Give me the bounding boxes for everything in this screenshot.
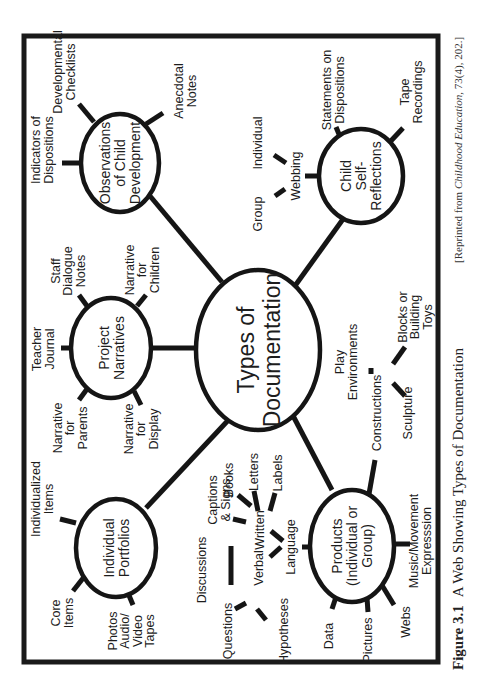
leaf-data: Data <box>322 623 336 649</box>
leaf-checklists: DevelopmentalChecklists <box>51 30 78 113</box>
node-label-portfolios: IndividualPortfolios <box>101 518 132 577</box>
leaf-photos: PhotosAudio/VideoTapes <box>106 612 158 651</box>
connector-constructions <box>369 460 375 494</box>
leaf-statements: Statements onDispositions <box>320 50 347 131</box>
spoke-anecdotal <box>146 113 163 124</box>
leaf-group: Group <box>251 197 265 232</box>
figure-source: [Reprinted from Childhood Education, 73(… <box>452 37 465 263</box>
leaf-blocks: Blocks orBuildingToys <box>396 291 435 342</box>
spoke-narr-display <box>134 391 141 405</box>
leaf-individual: Individual <box>251 117 265 170</box>
leaf-tape: TapeRecordings <box>398 60 425 123</box>
spoke-questions <box>235 603 246 609</box>
spoke-narr-parents <box>79 389 87 400</box>
leaf-questions: Questions <box>221 603 235 659</box>
leaf-written: Written <box>253 510 267 549</box>
spoke-individualized <box>60 519 76 523</box>
leaf-constructions: Constructions <box>370 375 384 451</box>
leaf-webs: Webs <box>399 606 413 638</box>
leaf-verbal: Verbal <box>252 550 266 585</box>
spoke-narr-children <box>137 295 146 306</box>
leaf-indicators: Indicators ofDispositions <box>29 115 56 184</box>
spoke-checklists <box>79 104 94 122</box>
leaf-narr-parents: NarrativeforParents <box>51 403 90 454</box>
spoke-group <box>275 189 285 196</box>
spoke-labels <box>270 493 275 511</box>
spoke-staff-dialogue <box>79 295 87 306</box>
figure-page: Types ofDocumentationObservationsof Chil… <box>0 0 481 695</box>
spoke-hypotheses <box>257 609 266 620</box>
spoke-core-items <box>73 577 84 591</box>
leaf-webbing: Webbing <box>289 151 303 200</box>
spoke-books <box>238 495 251 506</box>
leaf-books: Books <box>222 463 236 498</box>
spoke-individual <box>274 155 286 163</box>
leaf-anecdotal: AnecdotalNotes <box>172 63 199 119</box>
leaf-play-env: PlayEnvironments <box>333 324 360 400</box>
spoke-written <box>271 531 283 541</box>
leaf-music: Music/MovementExpresssion <box>407 493 434 588</box>
leaf-hypotheses: Hypotheses <box>277 598 291 664</box>
leaf-discussions: Discussions <box>195 537 209 604</box>
leaf-individualized: IndividualizedItems <box>29 461 56 537</box>
connector-products <box>290 410 332 490</box>
leaf-sculpture: Sculpture <box>401 387 415 440</box>
connector-self-reflections <box>292 215 346 290</box>
leaf-pictures: Pictures <box>361 617 375 662</box>
leaf-letters: Letters <box>247 453 261 491</box>
spoke-verbal <box>270 547 281 557</box>
leaf-core-items: CoreItems <box>49 598 76 629</box>
figure-caption: Figure 3.1A Web Showing Types of Documen… <box>450 348 466 670</box>
spoke-captions <box>233 519 246 522</box>
leaf-language: Language <box>284 519 298 575</box>
leaf-staff-dialogue: StaffDialogueNotes <box>49 246 88 295</box>
leaf-labels: Labels <box>271 455 285 492</box>
spoke-letters <box>254 491 258 511</box>
leaf-narr-children: NarrativeforChildren <box>123 245 162 296</box>
leaf-teacher-journal: TeacherJournal <box>30 327 57 371</box>
leaf-narr-display: NarrativeforDisplay <box>122 404 161 455</box>
spoke-blocks <box>393 347 405 364</box>
